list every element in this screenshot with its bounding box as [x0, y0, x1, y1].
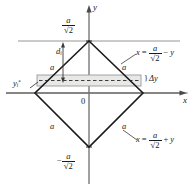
lower-eq-lhs: x	[136, 134, 140, 144]
distance-di-label: di	[56, 47, 62, 57]
lower-eq-denominator: √2	[149, 141, 162, 150]
upper-eq-equals: =	[142, 47, 147, 57]
lower-eq-rhs: y	[170, 134, 174, 144]
upper-eq-operator: −	[164, 47, 169, 57]
leader-line-lower-equation	[123, 130, 137, 140]
brace-glyph: }	[144, 73, 148, 83]
upper-eq-rhs: y	[170, 47, 174, 57]
x-axis-label: x	[183, 96, 187, 105]
lower-eq-operator: +	[164, 134, 169, 144]
edge-label-upper-left: a	[50, 63, 54, 72]
origin-label: 0	[81, 97, 85, 106]
y-axis-arrow	[86, 5, 91, 13]
lower-right-edge-equation: x=a√2+y	[136, 131, 174, 149]
edge-label-lower-left: a	[50, 122, 54, 131]
lower-eq-equals: =	[142, 134, 147, 144]
upper-right-edge-equation: x=a√2−y	[136, 44, 174, 62]
top-vertex-value: a√2	[62, 16, 75, 34]
delta-y-text: Δy	[149, 73, 158, 83]
yi-superscript-star: *	[18, 79, 21, 85]
sample-point-label: yi*	[13, 79, 21, 89]
edge-label-lower-right: a	[122, 122, 126, 131]
edge-label-upper-right: a	[122, 63, 126, 72]
bottom-vertex-value: −a√2	[57, 152, 75, 170]
strip-thickness-label: }Δy	[144, 74, 158, 83]
y-axis-label: y	[93, 3, 97, 12]
top-vertex-denominator: √2	[62, 26, 75, 35]
diagram-svg	[0, 0, 194, 187]
upper-eq-denominator: √2	[149, 54, 162, 63]
bottom-vertex-denominator: √2	[62, 162, 75, 171]
upper-eq-lhs: x	[136, 47, 140, 57]
di-subscript: i	[60, 50, 61, 56]
figure-canvas: y x 0 a√2 −a√2 a a a a di yi* }Δy x=a√2−…	[0, 0, 194, 187]
